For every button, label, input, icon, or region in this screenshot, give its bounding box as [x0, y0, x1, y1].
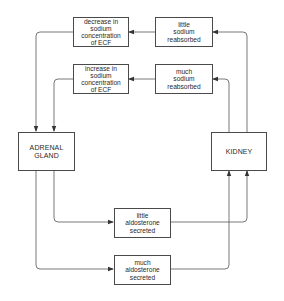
node-decrease-sodium: decrease in sodium concentration of ECF [73, 17, 129, 47]
node-little-aldosterone-secreted: little aldosterone secreted [114, 208, 171, 238]
edge-kidney-to-little-sodium [213, 32, 247, 132]
node-kidney: KIDNEY [211, 132, 267, 171]
node-label: much aldosterone secreted [125, 259, 159, 281]
edge-much-aldosterone-to-kidney [170, 171, 229, 269]
node-label: little sodium reabsorbed [167, 21, 200, 43]
node-little-sodium-reabsorbed: little sodium reabsorbed [155, 17, 213, 47]
edge-kidney-to-much-sodium [213, 79, 229, 132]
edge-little-aldosterone-to-kidney [170, 171, 247, 222]
node-much-aldosterone-secreted: much aldosterone secreted [114, 255, 171, 285]
edge-increase-to-adrenal [54, 79, 73, 131]
node-increase-sodium: increase in sodium concentration of ECF [73, 64, 129, 94]
node-label: KIDNEY [226, 148, 253, 156]
node-much-sodium-reabsorbed: much sodium reabsorbed [155, 64, 213, 94]
node-label: ADRENAL GLAND [30, 144, 64, 160]
node-label: little aldosterone secreted [125, 212, 159, 234]
node-label: decrease in sodium concentration of ECF [81, 18, 121, 47]
edge-adrenal-to-much-aldosterone [36, 170, 113, 269]
edge-adrenal-to-little-aldosterone [54, 170, 113, 222]
node-label: increase in sodium concentration of ECF [81, 65, 121, 94]
node-adrenal-gland: ADRENAL GLAND [18, 132, 75, 171]
node-label: much sodium reabsorbed [167, 68, 200, 90]
